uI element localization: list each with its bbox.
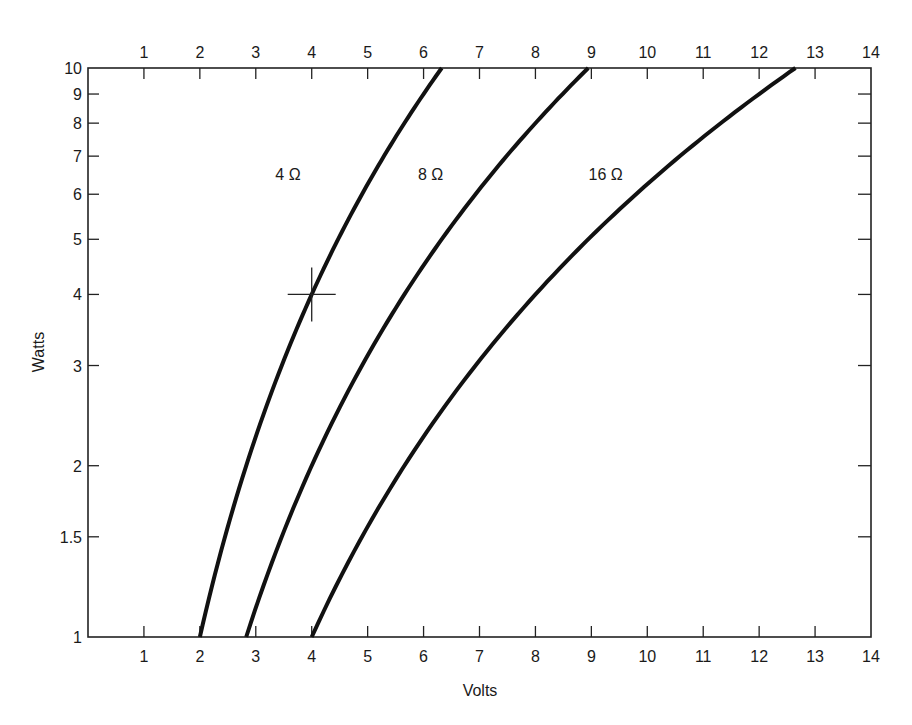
y-tick-label: 8 bbox=[73, 115, 82, 132]
x-tick-label-bottom: 12 bbox=[750, 648, 768, 665]
x-tick-label-bottom: 13 bbox=[806, 648, 824, 665]
volts-watts-chart: 1234567891011121314123456789101112131411… bbox=[0, 0, 912, 725]
x-tick-label-bottom: 6 bbox=[419, 648, 428, 665]
x-tick-label-bottom: 4 bbox=[307, 648, 316, 665]
y-tick-label: 3 bbox=[73, 358, 82, 375]
y-tick-label: 7 bbox=[73, 148, 82, 165]
power-curves bbox=[200, 68, 796, 637]
x-tick-label-bottom: 5 bbox=[363, 648, 372, 665]
x-tick-label-bottom: 9 bbox=[587, 648, 596, 665]
y-tick-label: 1.5 bbox=[60, 529, 82, 546]
x-tick-label-bottom: 14 bbox=[862, 648, 880, 665]
x-tick-label-bottom: 3 bbox=[251, 648, 260, 665]
crosshair-marker bbox=[288, 267, 336, 321]
x-tick-label-bottom: 7 bbox=[475, 648, 484, 665]
x-tick-label-bottom: 1 bbox=[139, 648, 148, 665]
curve-label-8-ohm: 8 Ω bbox=[418, 166, 443, 183]
curve-labels: 4 Ω8 Ω16 Ω bbox=[275, 166, 622, 183]
x-tick-label-top: 8 bbox=[531, 44, 540, 61]
curve-label-16-ohm: 16 Ω bbox=[589, 166, 623, 183]
x-tick-label-top: 12 bbox=[750, 44, 768, 61]
y-tick-label: 9 bbox=[73, 86, 82, 103]
x-axis-title: Volts bbox=[463, 682, 498, 699]
x-tick-label-bottom: 8 bbox=[531, 648, 540, 665]
y-tick-label: 10 bbox=[64, 60, 82, 77]
x-tick-label-top: 11 bbox=[695, 44, 712, 61]
y-axis-title: Watts bbox=[30, 332, 47, 372]
y-tick-label: 4 bbox=[73, 286, 82, 303]
x-tick-label-top: 6 bbox=[419, 44, 428, 61]
y-tick-label: 6 bbox=[73, 186, 82, 203]
x-tick-label-top: 14 bbox=[862, 44, 880, 61]
x-tick-label-top: 9 bbox=[587, 44, 596, 61]
x-tick-label-top: 13 bbox=[806, 44, 824, 61]
plot-frame bbox=[88, 68, 871, 637]
plot-border bbox=[88, 68, 871, 637]
y-tick-label: 5 bbox=[73, 231, 82, 248]
curve-4-ohm bbox=[200, 68, 442, 637]
x-tick-label-top: 3 bbox=[251, 44, 260, 61]
x-tick-label-top: 1 bbox=[139, 44, 148, 61]
x-tick-label-top: 2 bbox=[195, 44, 204, 61]
x-tick-label-top: 4 bbox=[307, 44, 316, 61]
curve-label-4-ohm: 4 Ω bbox=[275, 166, 300, 183]
x-tick-label-top: 10 bbox=[638, 44, 656, 61]
x-tick-label-bottom: 11 bbox=[695, 648, 712, 665]
axis-ticks bbox=[88, 68, 871, 637]
y-tick-label: 2 bbox=[73, 458, 82, 475]
x-tick-label-top: 5 bbox=[363, 44, 372, 61]
x-tick-label-top: 7 bbox=[475, 44, 484, 61]
curve-8-ohm bbox=[246, 68, 588, 637]
x-tick-label-bottom: 10 bbox=[638, 648, 656, 665]
axis-tick-labels: 1234567891011121314123456789101112131411… bbox=[60, 44, 880, 665]
y-tick-label: 1 bbox=[73, 629, 82, 646]
x-tick-label-bottom: 2 bbox=[195, 648, 204, 665]
